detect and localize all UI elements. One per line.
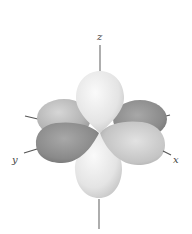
x-axis-label: x: [173, 154, 179, 165]
orbital-figure: z y x: [0, 0, 192, 234]
y-axis-label: y: [11, 154, 18, 165]
y-axis-line: [24, 149, 37, 153]
z-axis-label: z: [96, 31, 103, 42]
x-axis-line: [163, 151, 171, 155]
orbital-diagram: z y x: [0, 0, 192, 234]
